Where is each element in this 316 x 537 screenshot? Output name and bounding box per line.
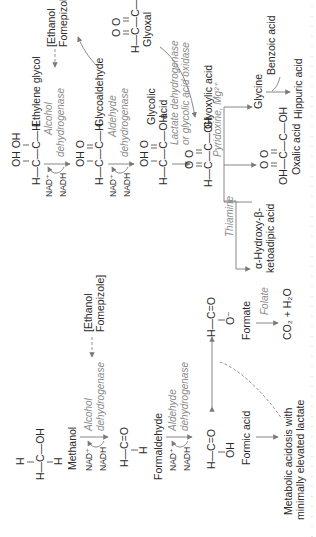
oxalic-acid-branch: O O OH—C—C—OH Oxalic acid — [224, 107, 302, 185]
ethylene-glycol-label: Ethylene glycol — [30, 56, 42, 127]
svg-text:dehydrogenase: dehydrogenase — [119, 88, 130, 157]
svg-text:H—C—C—H: H—C—C—H — [129, 0, 141, 53]
hippuric-acid-label: Hippuric acid — [292, 58, 304, 119]
methanol-aldh-step: NAD⁺ NADH Aldehyde dehydrogenase — [166, 362, 192, 471]
svg-text:O O: O O — [183, 150, 195, 169]
svg-text:minimally elevated lactate: minimally elevated lactate — [294, 400, 306, 520]
formaldehyde-structure: H—C=O H Formaldehyde — [118, 413, 164, 480]
glycoaldehyde-label: Glycoaldehyde — [93, 57, 105, 127]
svg-text:[Ethanol: [Ethanol — [82, 293, 94, 332]
svg-text:acid: acid — [157, 100, 169, 119]
methanol-adh-step: NAD⁺ NADH Alcohol dehydrogenase [Ethanol… — [80, 275, 108, 471]
svg-text:[Ethanol: [Ethanol — [45, 8, 57, 47]
ethylene-glycol-pathway: OH OH H—C—C—H Ethylene glycol NAD⁺ NADH … — [10, 0, 304, 273]
svg-text:O⁻: O⁻ — [224, 311, 236, 325]
svg-text:Aldehyde: Aldehyde — [107, 95, 118, 138]
eg-aldh-step: NAD⁺ NADH Aldehyde dehydrogenase — [107, 88, 134, 197]
svg-text:Alcohol: Alcohol — [83, 397, 94, 432]
svg-text:NAD⁺: NAD⁺ — [84, 448, 94, 471]
svg-text:H—C=O: H—C=O — [118, 427, 130, 467]
formate-structure: H—C=O O⁻ Formate Folate CO₂ + H₂O — [205, 287, 293, 340]
formate-label: Formate — [240, 301, 252, 340]
svg-text:H: H — [14, 457, 26, 465]
metabolism-diagram: H H—C—OH H Methanol NAD⁺ NADH Alcohol de… — [0, 0, 316, 537]
svg-text:H—C—C—H: H—C—C—H — [30, 123, 42, 185]
formaldehyde-label: Formaldehyde — [152, 413, 164, 480]
svg-text:dehydrogenase: dehydrogenase — [95, 362, 106, 431]
svg-text:Metabolic acidosis with: Metabolic acidosis with — [282, 407, 294, 515]
methanol-structure: H H—C—OH H Methanol — [14, 427, 78, 480]
eg-ldh-step: Lactate dehydrogenase or glycolic acid o… — [169, 40, 191, 164]
methanol-pathway: H H—C—OH H Methanol NAD⁺ NADH Alcohol de… — [14, 275, 306, 520]
svg-text:dehydrogenase: dehydrogenase — [55, 88, 66, 157]
svg-text:OH OH: OH OH — [10, 133, 22, 167]
svg-text:H—C=O: H—C=O — [205, 297, 217, 337]
svg-text:OH O: OH O — [74, 140, 86, 167]
svg-text:Thiamine: Thiamine — [224, 195, 235, 237]
glyoxal-label: Glyoxal — [141, 12, 153, 47]
svg-text:H—C—C—OH: H—C—C—OH — [157, 115, 169, 185]
formic-acid-structure: H—C=O OH Formic acid — [205, 411, 278, 469]
svg-text:NADH: NADH — [122, 173, 132, 197]
svg-text:H: H — [137, 446, 149, 454]
svg-text:NADH: NADH — [58, 173, 68, 197]
svg-text:Alcohol: Alcohol — [43, 101, 54, 136]
ethylene-glycol-structure: OH OH H—C—C—H Ethylene glycol — [10, 56, 42, 185]
svg-text:NAD⁺: NAD⁺ — [168, 448, 178, 471]
svg-text:H: H — [52, 457, 64, 465]
svg-text:Aldehyde: Aldehyde — [167, 389, 178, 432]
benzoic-acid-label: Benzoic acid — [265, 15, 277, 75]
thiamine-branch: Thiamine α-Hydroxy-β- ketoadipic acid — [224, 195, 276, 273]
svg-text:Fomepizole]: Fomepizole] — [57, 0, 69, 47]
formic-acid-label: Formic acid — [240, 411, 252, 465]
svg-text:H—C=O: H—C=O — [205, 429, 217, 469]
glycolic-acid-structure: OH O H—C—C—OH Glycolic acid — [138, 88, 169, 185]
eg-adh-step: NAD⁺ NADH Alcohol dehydrogenase [Ethanol… — [43, 0, 70, 197]
glycoaldehyde-structure: OH O H—C—C—H Glycoaldehyde — [74, 37, 105, 185]
svg-text:NADH: NADH — [98, 447, 108, 471]
svg-text:H—C—OH: H—C—OH — [34, 428, 46, 480]
svg-text:OH—C—C—OH: OH—C—C—OH — [277, 107, 289, 185]
svg-text:O O: O O — [258, 150, 270, 169]
svg-text:Pyridoxine, Mg²⁺: Pyridoxine, Mg²⁺ — [212, 82, 223, 157]
svg-text:Fomepizole]: Fomepizole] — [94, 275, 106, 332]
svg-text:α-Hydroxy-β-: α-Hydroxy-β- — [252, 207, 264, 269]
svg-text:OH O: OH O — [138, 140, 150, 167]
svg-text:or glycolic acid oxidase: or glycolic acid oxidase — [180, 42, 191, 145]
svg-text:NAD⁺: NAD⁺ — [44, 174, 54, 197]
svg-text:O O: O O — [110, 18, 122, 37]
svg-text:dehydrogenase: dehydrogenase — [179, 362, 190, 431]
svg-text:Glycolic: Glycolic — [145, 88, 157, 125]
co2-h2o-label: CO₂ + H₂O — [281, 288, 293, 340]
svg-text:Lactate dehydrogenase: Lactate dehydrogenase — [169, 40, 180, 145]
svg-text:NAD⁺: NAD⁺ — [108, 174, 118, 197]
svg-text:Folate: Folate — [259, 287, 270, 315]
oxalic-acid-label: Oxalic acid — [290, 123, 302, 175]
glycine-label: Glycine — [252, 74, 264, 109]
svg-text:ketoadipic acid: ketoadipic acid — [264, 203, 276, 273]
metabolic-acidosis-note: Metabolic acidosis with minimally elevat… — [282, 400, 306, 520]
svg-text:H—C—C—H: H—C—C—H — [93, 123, 105, 185]
methanol-label: Methanol — [66, 427, 78, 470]
svg-text:NADH: NADH — [182, 447, 192, 471]
svg-text:OH: OH — [224, 442, 236, 458]
